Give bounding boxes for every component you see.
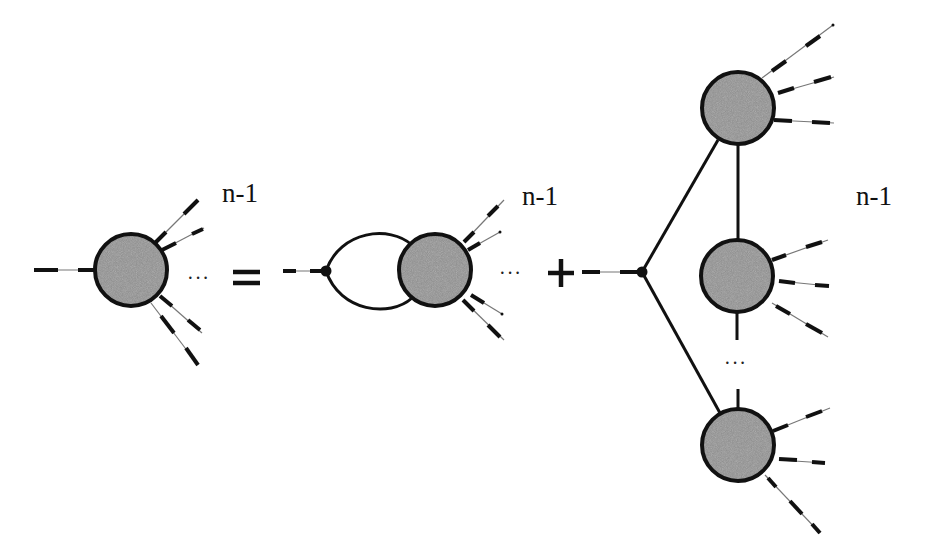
- plus-sign: [548, 259, 574, 287]
- bottom-blob-legs: [765, 408, 830, 533]
- tree-top-blob: [702, 72, 774, 144]
- rhs1-dots: ···: [499, 262, 522, 284]
- rhs2-legs-label: n-1: [856, 181, 892, 211]
- tree-upper-propagator: [642, 140, 718, 272]
- tree-bottom-blob: [702, 409, 774, 481]
- lhs-blob: [95, 234, 167, 306]
- rhs-loop-diagram: ··· n-1: [283, 181, 558, 340]
- rhs-tree-diagram: ···: [582, 24, 892, 534]
- rhs1-blob: [399, 234, 471, 306]
- lhs-legs-label: n-1: [222, 178, 258, 208]
- rhs1-vertex: [321, 266, 332, 277]
- feynman-diagram: ··· n-1: [0, 0, 933, 560]
- rhs2-vertex: [637, 267, 648, 278]
- middle-blob-legs: [772, 240, 829, 337]
- lhs-diagram: ··· n-1: [34, 178, 258, 365]
- equals-sign: [233, 272, 260, 283]
- rhs2-vertical-dots: ···: [724, 352, 747, 374]
- tree-middle-blob: [701, 240, 773, 312]
- lhs-dots: ···: [187, 267, 210, 289]
- rhs1-legs-label: n-1: [522, 181, 558, 211]
